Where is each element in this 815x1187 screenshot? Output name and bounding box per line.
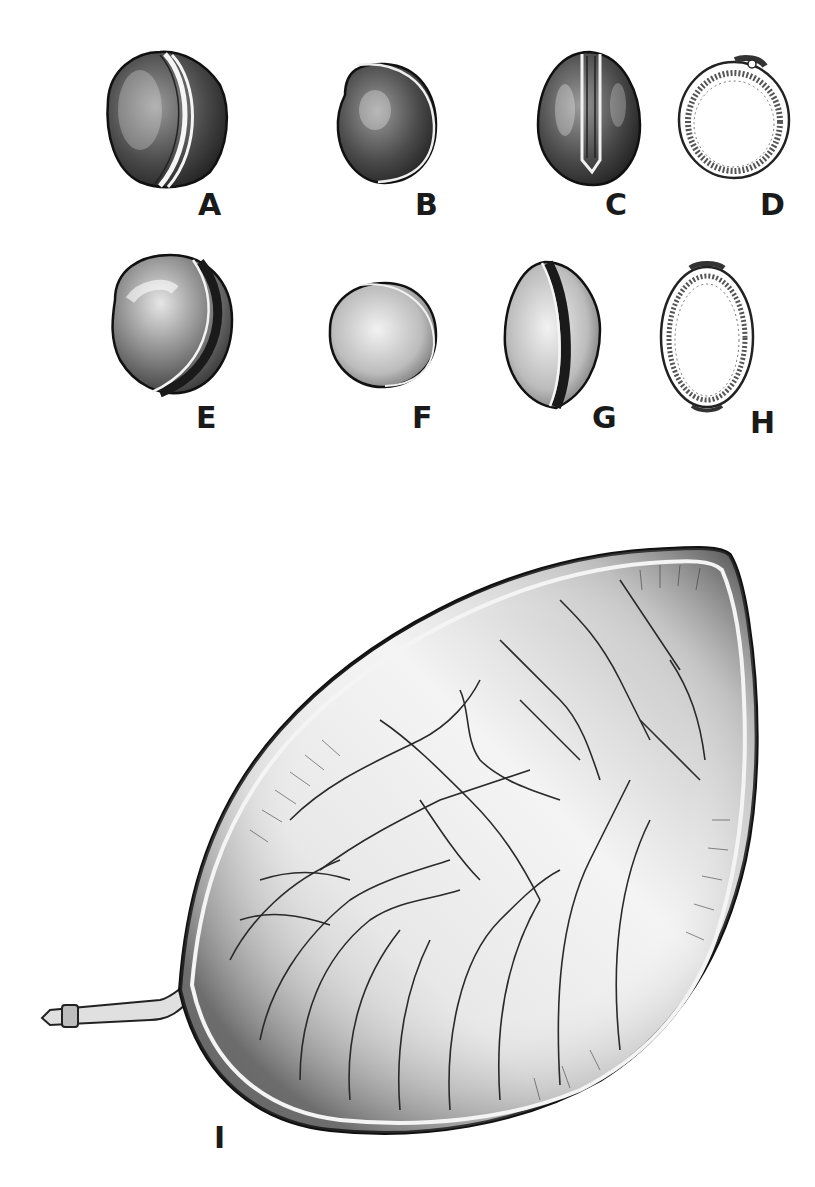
- label-h: H: [750, 408, 775, 438]
- label-a: A: [198, 190, 221, 220]
- figure-e-seed: [113, 255, 232, 393]
- figure-h-section: [661, 264, 753, 411]
- figure-d-section: [679, 58, 789, 178]
- figure-c-seed: [538, 52, 640, 185]
- figure-g-seed: [505, 262, 600, 408]
- label-c: C: [605, 190, 627, 220]
- figure-f-seed: [330, 283, 436, 387]
- label-e: E: [196, 403, 217, 433]
- label-f: F: [412, 403, 433, 433]
- figure-i-pod: [42, 548, 757, 1133]
- botanical-plate: [0, 0, 815, 1187]
- label-g: G: [592, 403, 617, 433]
- label-b: B: [415, 190, 438, 220]
- figure-a-seed: [107, 52, 226, 187]
- label-i: I: [214, 1123, 225, 1153]
- label-d: D: [760, 190, 785, 220]
- figure-b-seed: [338, 64, 436, 183]
